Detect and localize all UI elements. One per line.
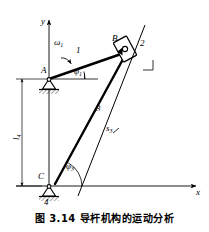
ground-support-A xyxy=(39,78,59,94)
leader-label-2 xyxy=(143,60,153,70)
link-label-1: 1 xyxy=(76,46,81,55)
phi3-subscript: 3 xyxy=(71,166,74,172)
joint-label-C: C xyxy=(38,172,44,181)
phi1-subscript: 1 xyxy=(79,71,82,77)
figure-caption: 图 3.14 导杆机构的运动分析 xyxy=(0,210,209,225)
ground-support-C xyxy=(39,185,59,201)
s3-label: s3 xyxy=(106,124,113,133)
joint-label-B: B xyxy=(112,34,118,43)
axis-group xyxy=(16,20,196,186)
mechanism-diagram xyxy=(0,0,209,232)
joint-label-A: A xyxy=(41,66,47,75)
link-label-4: 4 xyxy=(44,198,49,207)
joint-C-pin xyxy=(47,185,51,189)
l4-dimension-label: l4 xyxy=(12,134,21,140)
s3-subscript: 3 xyxy=(110,128,113,134)
omega1-subscript: 1 xyxy=(60,42,63,48)
joint-A-pin xyxy=(47,78,51,82)
omega1-arc-arrow xyxy=(61,58,71,64)
joint-B-pin xyxy=(122,46,127,51)
x-axis-label: x xyxy=(196,188,200,197)
phi1-label: φ1 xyxy=(74,67,82,76)
figure-container: y x A B C 1 2 3 4 ω1 φ1 φ3 s3 l4 图 3.14 … xyxy=(0,0,209,232)
link-label-2: 2 xyxy=(140,39,145,48)
s3-symbol: s xyxy=(106,123,110,133)
link-2-rod xyxy=(78,25,145,196)
omega1-label: ω1 xyxy=(54,38,63,47)
leader-2-path xyxy=(143,60,153,70)
link-2-long-rod xyxy=(78,25,145,196)
leader-s3 xyxy=(113,128,119,133)
s3-tick xyxy=(113,128,119,133)
phi3-label: φ3 xyxy=(66,162,74,171)
dimension-l4 xyxy=(16,79,51,186)
l4-symbol: l xyxy=(11,137,21,140)
link-label-3: 3 xyxy=(96,104,101,113)
support-A-hatching xyxy=(39,90,59,94)
omega1-indicator xyxy=(61,58,71,64)
crank-bar-AB xyxy=(49,53,124,79)
support-C-hatching xyxy=(39,197,59,201)
y-axis-label: y xyxy=(41,17,45,26)
link-1-crank xyxy=(49,53,124,79)
